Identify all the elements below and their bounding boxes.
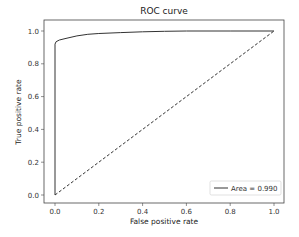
y-axis-title: True positive rate bbox=[14, 79, 23, 146]
y-tick-label: 1.0 bbox=[28, 28, 39, 36]
y-tick-label: 0.2 bbox=[28, 159, 39, 167]
y-tick-label: 0.8 bbox=[28, 60, 39, 68]
x-axis: 0.0 0.2 0.4 0.6 0.8 1.0 bbox=[49, 203, 279, 216]
x-tick-label: 0.8 bbox=[225, 208, 236, 216]
x-tick-label: 0.4 bbox=[137, 208, 149, 216]
y-tick-label: 0.6 bbox=[28, 93, 40, 101]
roc-chart: ROC curve 0.0 0.2 0.4 0.6 0.8 1.0 0.0 0.… bbox=[0, 0, 299, 237]
chart-title: ROC curve bbox=[140, 6, 188, 16]
axes-frame bbox=[44, 20, 284, 203]
x-tick-label: 0.0 bbox=[49, 208, 60, 216]
chance-diagonal-line bbox=[55, 31, 274, 195]
x-axis-title: False positive rate bbox=[130, 217, 199, 226]
x-tick-label: 0.2 bbox=[93, 208, 104, 216]
x-tick-label: 1.0 bbox=[268, 208, 279, 216]
legend-label: Area = 0.990 bbox=[231, 185, 277, 193]
y-axis: 0.0 0.2 0.4 0.6 0.8 1.0 bbox=[28, 28, 44, 200]
y-tick-label: 0.4 bbox=[28, 126, 40, 134]
y-tick-label: 0.0 bbox=[28, 192, 39, 200]
legend: Area = 0.990 bbox=[210, 181, 281, 195]
x-tick-label: 0.6 bbox=[181, 208, 193, 216]
